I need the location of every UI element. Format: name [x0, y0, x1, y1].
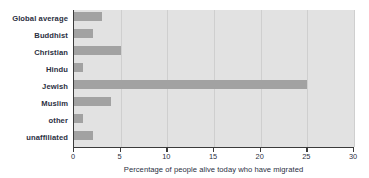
bar-buddhist: [74, 29, 93, 38]
category-axis-labels: Global average Buddhist Christian Hindu …: [0, 10, 68, 147]
category-label-jewish: Jewish: [0, 82, 68, 91]
bar-chart-figure: Global average Buddhist Christian Hindu …: [0, 0, 369, 178]
x-tick-label-5: 5: [105, 152, 135, 161]
category-label-unaffiliated: unaffiliated: [0, 133, 68, 142]
bar-christian: [74, 46, 121, 55]
x-tick-label-30: 30: [338, 152, 368, 161]
tick-mark-15: [213, 148, 214, 152]
bar-unaffiliated: [74, 131, 93, 140]
x-tick-label-0: 0: [58, 152, 88, 161]
bar-hindu: [74, 63, 83, 72]
x-tick-label-20: 20: [245, 152, 275, 161]
tick-mark-5: [120, 148, 121, 152]
gridline-30: [354, 10, 355, 147]
plot-area: [73, 10, 354, 148]
category-label-other: other: [0, 116, 68, 125]
tick-mark-10: [166, 148, 167, 152]
tick-mark-25: [306, 148, 307, 152]
category-label-muslim: Muslim: [0, 99, 68, 108]
tick-mark-0: [73, 148, 74, 152]
x-axis-tick-labels: 051015202530: [0, 152, 369, 163]
category-label-global-average: Global average: [0, 14, 68, 23]
bar-other: [74, 114, 83, 123]
bar-series: [74, 10, 354, 147]
x-tick-label-25: 25: [291, 152, 321, 161]
category-label-christian: Christian: [0, 48, 68, 57]
x-axis-title: Percentage of people alive today who hav…: [73, 165, 354, 175]
tick-mark-20: [260, 148, 261, 152]
x-tick-label-10: 10: [151, 152, 181, 161]
bar-global-average: [74, 12, 102, 21]
category-label-buddhist: Buddhist: [0, 31, 68, 40]
category-label-hindu: Hindu: [0, 65, 68, 74]
x-tick-label-15: 15: [198, 152, 228, 161]
bar-muslim: [74, 97, 111, 106]
bar-jewish: [74, 80, 307, 89]
tick-mark-30: [353, 148, 354, 152]
